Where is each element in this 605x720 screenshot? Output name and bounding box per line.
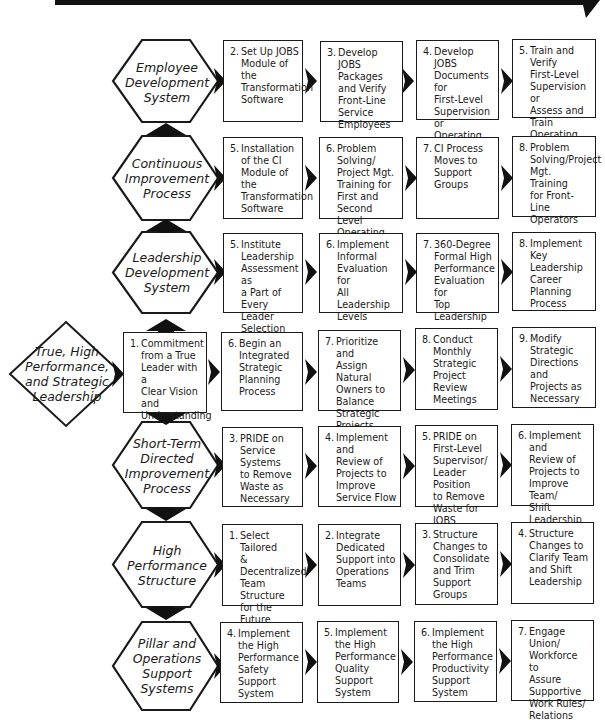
- step-box: 6. Begin an Integrated Strategic Plannin…: [221, 332, 303, 411]
- right-arrow-icon: [305, 649, 317, 675]
- step-box: 4. Develop JOBS Documents for First-Leve…: [416, 40, 499, 120]
- step-box: 5. Institute Leadership Assessment as a …: [223, 233, 303, 313]
- right-arrow-icon: [305, 259, 317, 285]
- step-box: 4. Implement and Review of Projects to I…: [318, 426, 401, 507]
- step-box: 8. Problem Solving/Project Mgt. Training…: [512, 136, 596, 217]
- step-box: 3. Develop JOBS Packages and Verify Fron…: [320, 41, 403, 122]
- step-box: 8. Conduct Monthly Strategic Project Rev…: [415, 328, 498, 410]
- step-box: 7. 360-Degree Formal High Performance Ev…: [416, 233, 499, 313]
- step-box: 5. Implement the High Performance Qualit…: [317, 621, 399, 703]
- up-arrow-icon: [146, 123, 186, 137]
- hexagon-label-leadership-development: Leadership Development System: [118, 234, 216, 310]
- step-box: 2. Integrate Dedicated Support into Oper…: [318, 524, 401, 606]
- hexagon-label-pillar-operations-support: Pillar and Operations Support Systems: [118, 626, 216, 706]
- transformation-flow-diagram: True, High Performance, and Strategic Le…: [0, 0, 605, 720]
- right-arrow-icon: [305, 359, 317, 385]
- step-box: 2. Set Up JOBS Module of the Transformat…: [223, 40, 303, 122]
- right-arrow-icon: [401, 649, 413, 675]
- step-box: 5. PRIDE on First-Level Supervisor/ Lead…: [415, 425, 498, 507]
- right-arrow-icon: [403, 552, 415, 578]
- right-arrow-icon: [499, 648, 511, 674]
- right-arrow-icon: [403, 357, 415, 383]
- right-arrow-icon: [305, 453, 317, 479]
- step-box: 1. Select Tailored & Decentralized Team …: [222, 524, 303, 606]
- step-box: 4. Implement the High Performance Safety…: [220, 622, 303, 703]
- hexagon-label-short-term-improvement: Short-Term Directed Improvement Process: [116, 426, 218, 506]
- start-diamond-label: True, High Performance, and Strategic Le…: [22, 336, 112, 412]
- step-box: 7. Engage Union/ Workforce to Assure Sup…: [511, 620, 594, 701]
- step-box: 4. Structure Changes to Clarify Team and…: [511, 522, 594, 604]
- step-box: 7. Prioritize and Assign Natural Owners …: [318, 330, 401, 411]
- step-box: 5. Train and Verify First-Level Supervis…: [512, 39, 596, 118]
- step-box: 6. Problem Solving/ Project Mgt. Trainin…: [319, 137, 403, 219]
- hexagon-label-high-performance-structure: High Performance Structure: [118, 526, 216, 604]
- down-arrow-icon: [146, 606, 186, 620]
- banner-arrow: [55, 0, 600, 18]
- step-box: 3. Structure Changes to Consolidate and …: [415, 523, 498, 605]
- step-box: 6. Implement and Review of Projects to I…: [511, 424, 594, 506]
- step-box: 5. Installation of the CI Module of the …: [223, 137, 303, 219]
- up-arrow-icon: [146, 319, 186, 333]
- step-box: 6. Implement Informal Evaluation for All…: [319, 233, 403, 313]
- core-step-box: 1. Commitment from a True Leader with a …: [123, 332, 207, 413]
- step-box: 9. Modify Strategic Directions and Proje…: [512, 327, 596, 408]
- right-arrow-icon: [403, 453, 415, 479]
- step-box: 8. Implement Key Leadership Career Plann…: [512, 232, 596, 311]
- right-arrow-icon: [305, 552, 317, 578]
- down-arrow-icon: [146, 507, 186, 521]
- right-arrow-icon: [402, 68, 414, 94]
- right-arrow-icon: [500, 356, 512, 382]
- hexagon-label-employee-development: Employee Development System: [118, 44, 216, 120]
- right-arrow-icon: [208, 359, 220, 385]
- step-box: 3. PRIDE on Service Systems to Remove Wa…: [222, 427, 303, 507]
- hexagon-label-continuous-improvement: Continuous Improvement Process: [118, 140, 216, 216]
- step-box: 7. CI Process Moves to Support Groups: [416, 137, 499, 219]
- right-arrow-icon: [305, 165, 317, 191]
- step-box: 6. Implement the High Performance Produc…: [414, 621, 497, 702]
